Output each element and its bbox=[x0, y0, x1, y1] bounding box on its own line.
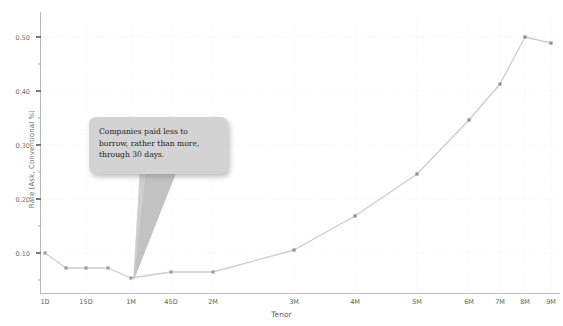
callout-bubble: Companies paid less to borrow, rather th… bbox=[89, 117, 228, 174]
y-axis-line bbox=[36, 12, 41, 294]
plot-area bbox=[0, 0, 563, 326]
chart-container: Rate (Ask, Conventional %) Tenor 0.50 0.… bbox=[0, 0, 563, 326]
callout-line-2: borrow, rather than more, bbox=[99, 138, 221, 150]
callout-line-3: through 30 days. bbox=[99, 149, 221, 161]
callout-line-1: Companies paid less to bbox=[99, 126, 221, 138]
callout-pointer-tail bbox=[133, 168, 178, 281]
